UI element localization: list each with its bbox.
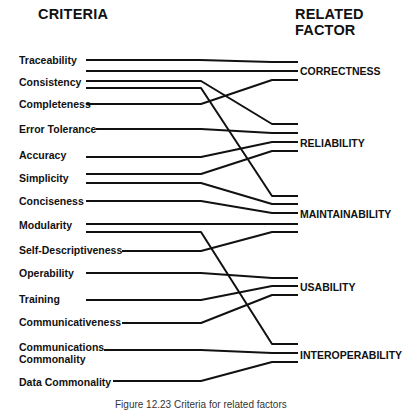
criterion-label: Conciseness: [19, 195, 84, 207]
connection-line: [122, 232, 298, 251]
factor-label: RELIABILITY: [300, 137, 365, 149]
criterion-label: Training: [19, 293, 60, 305]
criterion-label: Modularity: [19, 219, 72, 231]
criterion-label: Communicativeness: [19, 316, 121, 328]
criterion-label: Communications: [19, 341, 104, 353]
criterion-label: Operability: [19, 267, 74, 279]
connection-line: [86, 142, 298, 157]
criterion-label: Consistency: [19, 76, 81, 88]
criterion-label: Accuracy: [19, 149, 66, 161]
connection-line: [113, 362, 298, 381]
criterion-label: Commonality: [19, 353, 86, 365]
figure-caption: Figure 12.23 Criteria for related factor…: [115, 399, 287, 410]
criterion-label: Traceability: [19, 54, 77, 66]
criterion-label: Data Commonality: [19, 376, 111, 388]
criterion-label: Error Tolerance: [19, 123, 96, 135]
criterion-label: Simplicity: [19, 172, 69, 184]
connection-line: [86, 60, 298, 62]
factor-label: MAINTAINABILITY: [300, 208, 391, 220]
connection-line: [86, 151, 298, 174]
connection-line: [96, 129, 298, 133]
factor-label: USABILITY: [300, 281, 355, 293]
connection-line: [86, 80, 298, 104]
criterion-label: Completeness: [19, 98, 91, 110]
factor-label: CORRECTNESS: [300, 65, 381, 77]
factor-label: INTEROPERABILITY: [300, 349, 402, 361]
connection-line: [104, 350, 298, 353]
connection-line: [86, 273, 298, 278]
criterion-label: Self-Descriptiveness: [19, 244, 122, 256]
